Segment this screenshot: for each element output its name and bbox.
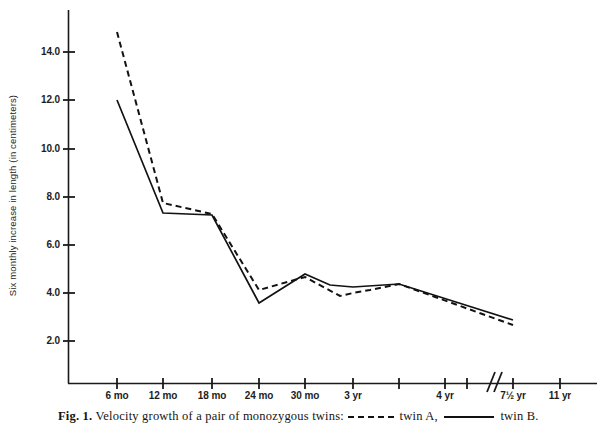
figure-caption: Fig. 1. Velocity growth of a pair of mon… — [58, 409, 610, 424]
series-line-twin-b — [117, 100, 513, 320]
series-line-twin-a — [117, 32, 513, 325]
legend-solid-swatch-icon — [444, 416, 494, 418]
axis-break-icon — [487, 372, 502, 392]
legend-label-twin-b: twin B. — [500, 409, 538, 423]
caption-figure-number: Fig. 1. — [58, 409, 92, 423]
legend-label-twin-a: twin A, — [400, 409, 438, 423]
figure-container: Six monthly increase in length (in centi… — [0, 0, 616, 440]
legend-dashed-swatch-icon — [348, 416, 394, 418]
plot-area — [0, 0, 616, 440]
caption-text: Velocity growth of a pair of monozygous … — [96, 409, 344, 423]
